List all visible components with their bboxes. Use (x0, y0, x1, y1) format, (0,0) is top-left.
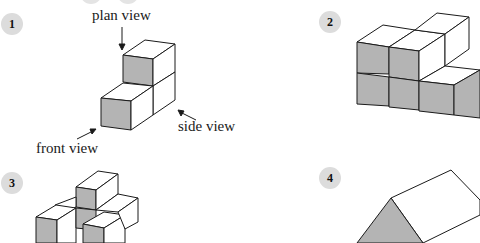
figure-1-drawing (77, 27, 196, 139)
figure-3-drawing (36, 171, 138, 243)
isometric-drawings (0, 0, 480, 243)
figure-4-drawing (357, 170, 480, 243)
figure-2-drawing (357, 13, 480, 118)
